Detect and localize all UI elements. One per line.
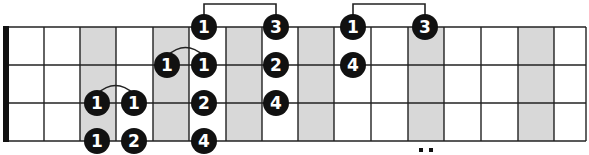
finger-number: 3 (270, 17, 282, 37)
finger-number: 2 (128, 131, 140, 151)
finger-number: 4 (347, 55, 359, 75)
finger-number: 1 (91, 93, 103, 113)
finger-number: 2 (198, 93, 210, 113)
fretboard-svg: 131311241124124 (0, 0, 589, 155)
stretch-bracket (353, 4, 425, 17)
fret-shade-7 (226, 27, 262, 141)
fretboard-diagram: 131311241124124 (0, 0, 589, 155)
finger-number: 1 (128, 93, 140, 113)
finger-number: 1 (347, 17, 359, 37)
fret-shade-9 (298, 27, 334, 141)
fret-shade-15 (518, 27, 554, 141)
finger-number: 3 (419, 17, 431, 37)
fret-shade-5 (153, 27, 189, 141)
finger-number: 2 (270, 55, 282, 75)
nut (3, 26, 9, 142)
finger-number: 4 (270, 93, 282, 113)
finger-number: 4 (198, 131, 210, 151)
fret-marker-dot (419, 148, 423, 152)
fret-shade-3 (80, 27, 116, 141)
finger-number: 1 (198, 55, 210, 75)
finger-number: 1 (161, 55, 173, 75)
fret-shade-12 (408, 27, 444, 141)
finger-number: 1 (91, 131, 103, 151)
stretch-bracket (204, 4, 276, 17)
fret-marker-dot (429, 148, 433, 152)
finger-number: 1 (198, 17, 210, 37)
